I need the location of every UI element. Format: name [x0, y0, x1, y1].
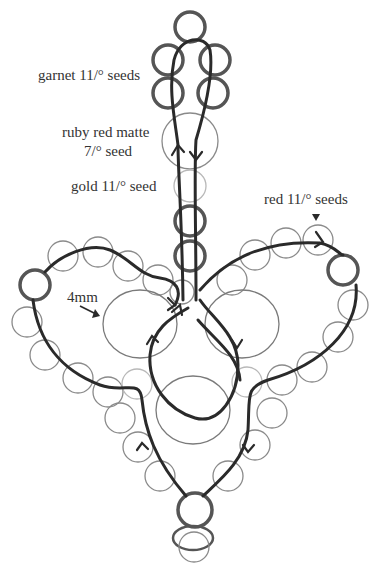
bottom-bead	[178, 493, 212, 527]
label-red-seeds: red 11/° seeds	[264, 191, 348, 207]
label-gold-seed: gold 11/° seed	[71, 178, 157, 194]
lower-v-beads	[105, 398, 287, 562]
garnet-beads	[153, 12, 230, 108]
4mm-beads	[103, 290, 279, 444]
label-4mm: 4mm	[67, 289, 98, 305]
beading-diagram: garnet 11/° seeds ruby red matte 7/° see…	[0, 0, 388, 573]
pointer-triangle-icon	[312, 214, 320, 221]
thread-path	[33, 40, 356, 496]
label-garnet-seeds: garnet 11/° seeds	[38, 67, 140, 83]
ruby-bead	[162, 113, 218, 169]
label-ruby-red-matte: ruby red matte	[62, 124, 150, 140]
stem-bead-2	[175, 241, 205, 271]
pointer-arrow-icon	[80, 306, 100, 318]
label-ruby-seed-size: 7/° seed	[84, 143, 133, 159]
